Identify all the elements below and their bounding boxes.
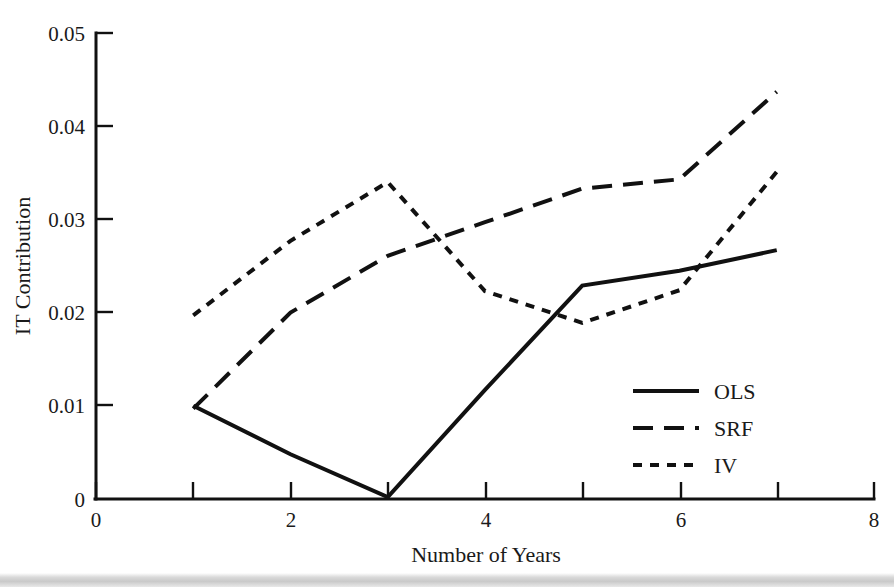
y-tick-label-0: 0: [75, 488, 86, 512]
y-axis-title: IT Contribution: [10, 197, 35, 335]
x-tick-label-2: 2: [286, 508, 297, 532]
legend-label-srf: SRF: [714, 416, 753, 441]
series-line-iv: [193, 172, 777, 323]
x-tick-label-8: 8: [869, 508, 880, 532]
series-line-ols: [193, 250, 777, 497]
x-tick-label-0: 0: [91, 508, 102, 532]
x-tick-label-6: 6: [676, 508, 687, 532]
y-tick-label-4: 0.04: [48, 115, 85, 139]
y-tick-label-3: 0.03: [48, 208, 85, 232]
x-tick-label-4: 4: [481, 508, 492, 532]
legend-label-iv: IV: [714, 453, 737, 478]
line-chart: 0.05 0.04 0.03 0.02 0.01 0 0 2 4 6 8 Num…: [0, 0, 894, 587]
legend: OLS SRF IV: [633, 379, 756, 478]
legend-label-ols: OLS: [714, 379, 756, 404]
y-tick-label-2: 0.02: [48, 301, 85, 325]
y-tick-label-5: 0.05: [48, 22, 85, 46]
page-edge-band: [0, 573, 894, 587]
x-axis-title: Number of Years: [411, 542, 561, 567]
chart-figure: 0.05 0.04 0.03 0.02 0.01 0 0 2 4 6 8 Num…: [0, 0, 894, 587]
y-tick-label-1: 0.01: [48, 394, 85, 418]
